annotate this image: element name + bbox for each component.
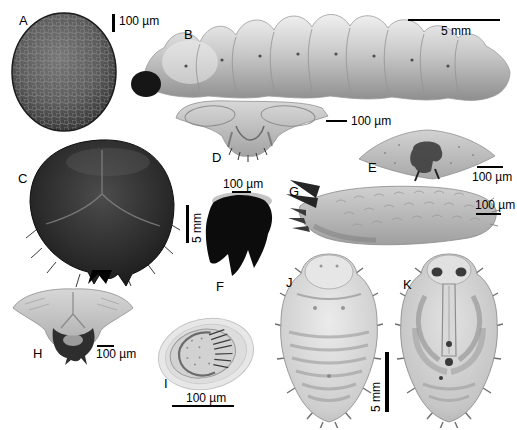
scalebar-c-line [186, 205, 189, 243]
pupa-k-eye-left [432, 268, 443, 277]
pupa-k-eye-right [456, 268, 467, 277]
panel-label-a: A [19, 14, 28, 27]
panel-label-c: C [18, 172, 27, 185]
panel-d [170, 92, 332, 164]
scalebar-c-text: 5 mm [191, 207, 203, 243]
spiracle-image [153, 308, 259, 400]
pupa-ventral-image [395, 248, 503, 428]
panel-label-d: D [212, 151, 221, 164]
scalebar-d-line [326, 120, 347, 122]
scalebar-g-line [476, 213, 501, 215]
panel-f [200, 188, 285, 280]
figure-canvas: A B C D E F G H I J K 100 µm 5 mm 5 mm 1… [0, 0, 517, 430]
panel-label-i: I [164, 377, 168, 390]
scalebar-a-text: 100 µm [119, 15, 159, 27]
panel-label-f: F [216, 280, 224, 293]
panel-label-b: B [184, 28, 193, 41]
scalebar-h-text: 100 µm [96, 348, 136, 360]
mandible-image [200, 188, 285, 280]
panel-label-k: K [403, 278, 412, 291]
scalebar-jk-line [385, 352, 389, 412]
scalebar-f-line [232, 191, 251, 193]
scalebar-e-line [477, 166, 503, 168]
panel-g [280, 176, 502, 256]
scalebar-f-text: 100 µm [223, 178, 263, 190]
scalebar-i-line [172, 405, 234, 407]
epipharynx-image [170, 92, 332, 164]
head-capsule-image [22, 132, 182, 290]
scalebar-e-text: 100 µm [472, 171, 512, 183]
panel-label-j: J [286, 276, 293, 289]
scalebar-d-text: 100 µm [351, 115, 391, 127]
scalebar-b-text: 5 mm [441, 25, 471, 37]
scalebar-a-line [112, 14, 115, 32]
maxilla-image [280, 176, 502, 256]
scalebar-jk-text: 5 mm [370, 362, 382, 412]
larva-head [131, 71, 161, 97]
panel-k [395, 248, 503, 428]
panel-label-e: E [368, 161, 377, 174]
panel-c [22, 132, 182, 290]
panel-label-h: H [33, 347, 42, 360]
scalebar-g-text: 100 µm [475, 199, 515, 211]
panel-label-g: G [289, 185, 299, 198]
panel-i [153, 308, 259, 400]
scalebar-b-line [408, 19, 500, 21]
scalebar-i-text: 100 µm [186, 392, 226, 404]
